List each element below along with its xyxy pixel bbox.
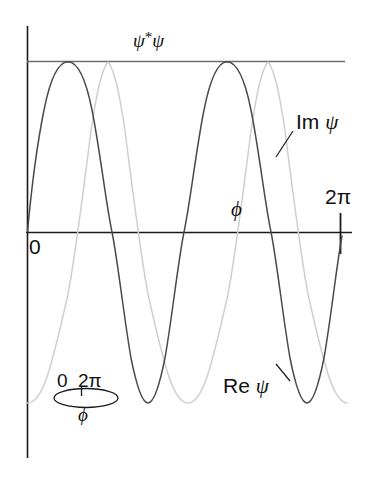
psi-glyph-2: ψ (152, 30, 164, 51)
probability-density-label: ψ*ψ (133, 30, 164, 50)
re-prefix: Re (223, 374, 256, 397)
wavefunction-plot (0, 0, 377, 485)
ring-phi-label: ϕ (78, 405, 88, 424)
phi-axis-label: ϕ (231, 199, 242, 220)
im-prefix: Im (296, 110, 325, 133)
two-pi-label: 2π (325, 186, 351, 207)
ring-two-pi-label: 2π (78, 371, 102, 390)
re-psi-label: Re ψ (223, 375, 269, 397)
figure-container: ψ*ψ 0 ϕ 2π Im ψ Re ψ 0 2π ϕ (0, 0, 377, 485)
im-psi-leader-line (276, 131, 293, 157)
psi-glyph-1: ψ (133, 30, 145, 51)
im-psi-glyph: ψ (325, 110, 338, 134)
im-psi-label: Im ψ (296, 111, 338, 133)
re-psi-glyph: ψ (256, 374, 269, 398)
origin-label: 0 (29, 236, 41, 257)
ring-zero-label: 0 (57, 371, 68, 390)
re-psi-leader-line (276, 364, 290, 381)
